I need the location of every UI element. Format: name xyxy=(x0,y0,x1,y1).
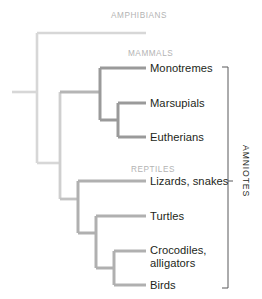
tip-label-eutherians: Eutherians xyxy=(150,131,204,144)
tip-label-birds: Birds xyxy=(150,279,176,292)
tree-branches-canvas xyxy=(0,0,262,299)
mammal-clade-branches xyxy=(100,68,146,137)
tip-label-marsupials: Marsupials xyxy=(150,97,205,110)
mammals-group-label: MAMMALS xyxy=(128,49,173,58)
amniote-node xyxy=(60,92,100,199)
amniotes-bracket-label: AMNIOTES xyxy=(241,145,250,197)
tip-label-crocodiles-alligators: Crocodiles, alligators xyxy=(150,244,207,269)
reptiles-group-label: REPTILES xyxy=(131,165,175,174)
tip-label-turtles: Turtles xyxy=(150,210,184,223)
reptile-clade-branches xyxy=(78,181,146,285)
amphibians-group-label: AMPHIBIANS xyxy=(111,11,167,20)
tip-label-lizards-snakes: Lizards, snakes xyxy=(150,175,228,188)
phylogenetic-tree-diagram: AMPHIBIANS MAMMALS REPTILES Monotremes M… xyxy=(0,0,262,299)
tip-label-monotremes: Monotremes xyxy=(150,62,213,75)
